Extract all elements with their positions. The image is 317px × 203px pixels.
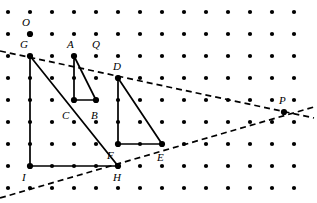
lattice-dot	[50, 32, 54, 36]
lattice-dot	[160, 76, 164, 80]
lattice-dot	[182, 10, 186, 14]
lattice-dot	[6, 142, 10, 146]
lattice-dot	[248, 142, 252, 146]
lattice-dot	[226, 32, 230, 36]
lattice-dot	[50, 142, 54, 146]
lattice-dot	[204, 10, 208, 14]
lattice-dot	[182, 186, 186, 190]
lattice-dot	[94, 186, 98, 190]
lattice-dot	[160, 32, 164, 36]
point-A-marker	[71, 53, 77, 59]
lattice-dot	[94, 142, 98, 146]
lattice-dot	[270, 98, 274, 102]
lattice-dot	[160, 10, 164, 14]
lattice-dot	[116, 10, 120, 14]
lattice-dot	[160, 54, 164, 58]
lattice-dot	[270, 186, 274, 190]
lattice-dot	[138, 76, 142, 80]
point-I-label: I	[22, 172, 26, 183]
lattice-dot	[292, 76, 296, 80]
lattice-dot	[204, 98, 208, 102]
lattice-dot	[6, 120, 10, 124]
lattice-dot	[248, 164, 252, 168]
point-H-label: H	[113, 172, 121, 183]
lattice-dot	[6, 186, 10, 190]
lattice-dot	[138, 98, 142, 102]
point-H-marker	[115, 163, 121, 169]
dashed-line-upper	[0, 51, 314, 118]
lattice-dot	[72, 186, 76, 190]
lattice-dot	[28, 10, 32, 14]
lattice-dot	[6, 32, 10, 36]
lattice-dot	[292, 98, 296, 102]
lattice-dot	[270, 10, 274, 14]
dashed-lines-group	[0, 51, 314, 198]
lattice-dot	[270, 120, 274, 124]
lattice-dot	[50, 120, 54, 124]
lattice-dot	[292, 54, 296, 58]
lattice-dot	[204, 32, 208, 36]
point-I-marker	[27, 163, 33, 169]
lattice-dot	[292, 32, 296, 36]
lattice-dot	[182, 98, 186, 102]
triangle-DFE	[118, 78, 162, 144]
lattice-dot	[226, 54, 230, 58]
point-D-label: D	[113, 61, 121, 72]
lattice-dot	[292, 186, 296, 190]
point-C-label: C	[62, 110, 69, 121]
lattice-dot	[270, 54, 274, 58]
triangle-ACB	[74, 56, 96, 100]
point-P-marker	[281, 109, 287, 115]
lattice-dot	[138, 32, 142, 36]
point-C-marker	[71, 97, 77, 103]
point-E-marker	[159, 141, 165, 147]
lattice-dot	[6, 54, 10, 58]
lattice-dot	[204, 120, 208, 124]
lattice-dot	[6, 98, 10, 102]
lattice-dot	[248, 76, 252, 80]
lattice-dot	[182, 164, 186, 168]
lattice-dot	[248, 98, 252, 102]
point-O-marker	[27, 31, 33, 37]
lattice-dot	[226, 164, 230, 168]
lattice-dot	[226, 10, 230, 14]
lattice-dot	[204, 142, 208, 146]
lattice-dot	[160, 164, 164, 168]
lattice-dot	[292, 142, 296, 146]
point-E-label: E	[157, 152, 164, 163]
lattice-dot	[160, 120, 164, 124]
lattice-dot	[94, 10, 98, 14]
lattice-dot	[50, 54, 54, 58]
lattice-dot	[248, 186, 252, 190]
lattice-dot	[138, 10, 142, 14]
dot-grid	[6, 10, 296, 190]
point-Q-label: Q	[92, 39, 100, 50]
lattice-dot	[226, 142, 230, 146]
lattice-dot	[248, 120, 252, 124]
lattice-dot	[292, 120, 296, 124]
lattice-dot	[116, 54, 120, 58]
lattice-dot	[94, 54, 98, 58]
lattice-dot	[72, 10, 76, 14]
lattice-dot	[138, 164, 142, 168]
geometry-figure	[0, 0, 317, 203]
point-F-label: F	[107, 150, 114, 161]
lattice-dot	[138, 54, 142, 58]
point-A-label: A	[67, 39, 74, 50]
point-D-marker	[115, 75, 121, 81]
point-B-label: B	[91, 110, 98, 121]
lattice-dot	[138, 120, 142, 124]
lattice-dot	[204, 164, 208, 168]
lattice-dot	[6, 76, 10, 80]
lattice-dot	[50, 98, 54, 102]
point-G-marker	[27, 53, 33, 59]
point-O-label: O	[22, 17, 30, 28]
lattice-dot	[292, 164, 296, 168]
lattice-dot	[204, 76, 208, 80]
lattice-dot	[94, 32, 98, 36]
lattice-dot	[226, 120, 230, 124]
lattice-dot	[182, 32, 186, 36]
lattice-dot	[160, 186, 164, 190]
point-B-marker	[93, 97, 99, 103]
lattice-dot	[72, 32, 76, 36]
